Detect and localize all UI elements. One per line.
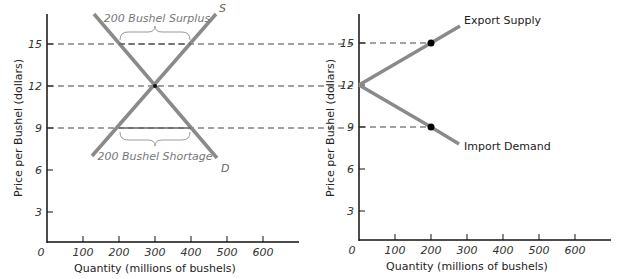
left-panel: 15 12 9 6 3 0 100 200 300 400 500 600 Qu… — [12, 2, 299, 275]
left-xtick-400: 400 — [181, 246, 202, 259]
right-x-axis-title: Quantity (millions of bushels) — [386, 260, 548, 273]
chart-canvas: 15 12 9 6 3 0 100 200 300 400 500 600 Qu… — [0, 0, 618, 279]
left-xtick-500: 500 — [217, 246, 238, 259]
left-ytick-3: 3 — [35, 206, 42, 219]
right-ytick-6: 6 — [347, 163, 354, 176]
left-ytick-15: 15 — [28, 38, 42, 51]
left-y-axis-title: Price per Bushel (dollars) — [12, 59, 25, 197]
reference-lines — [48, 43, 430, 128]
export-supply-label: Export Supply — [464, 14, 541, 27]
export-point — [428, 40, 435, 47]
supply-label: S — [219, 2, 226, 15]
right-xtick-200: 200 — [421, 244, 442, 257]
demand-label: D — [221, 162, 229, 175]
left-xtick-300: 300 — [145, 246, 166, 259]
right-xtick-100: 100 — [385, 244, 406, 257]
left-ytick-9: 9 — [35, 122, 42, 135]
right-xtick-0: 0 — [349, 244, 356, 257]
left-xtick-100: 100 — [73, 246, 94, 259]
left-x-axis-title: Quantity (millions of bushels) — [74, 262, 236, 275]
left-xtick-600: 600 — [253, 246, 274, 259]
surplus-label: 200 Bushel Surplus — [104, 12, 211, 25]
right-xtick-300: 300 — [457, 244, 478, 257]
export-supply-curve — [359, 26, 460, 85]
equilibrium-point — [153, 84, 157, 88]
right-xtick-400: 400 — [493, 244, 514, 257]
shortage-label: 200 Bushel Shortage — [97, 150, 212, 163]
right-panel: 15 12 9 6 3 0 100 200 300 400 500 600 Qu… — [324, 14, 611, 273]
left-xtick-200: 200 — [109, 246, 130, 259]
shortage-brace — [120, 132, 190, 146]
left-xtick-0: 0 — [38, 246, 45, 259]
right-xtick-600: 600 — [565, 244, 586, 257]
import-point — [428, 124, 435, 131]
left-ytick-12: 12 — [28, 80, 42, 93]
right-ytick-15: 15 — [340, 37, 354, 50]
right-y-axis-title: Price per Bushel (dollars) — [324, 59, 337, 197]
import-demand-label: Import Demand — [464, 140, 551, 153]
right-ytick-9: 9 — [347, 121, 354, 134]
right-ytick-12: 12 — [340, 79, 354, 92]
surplus-brace — [120, 26, 190, 40]
right-ytick-3: 3 — [347, 205, 354, 218]
left-ytick-6: 6 — [35, 164, 42, 177]
import-demand-curve — [359, 85, 459, 144]
right-xtick-500: 500 — [529, 244, 550, 257]
